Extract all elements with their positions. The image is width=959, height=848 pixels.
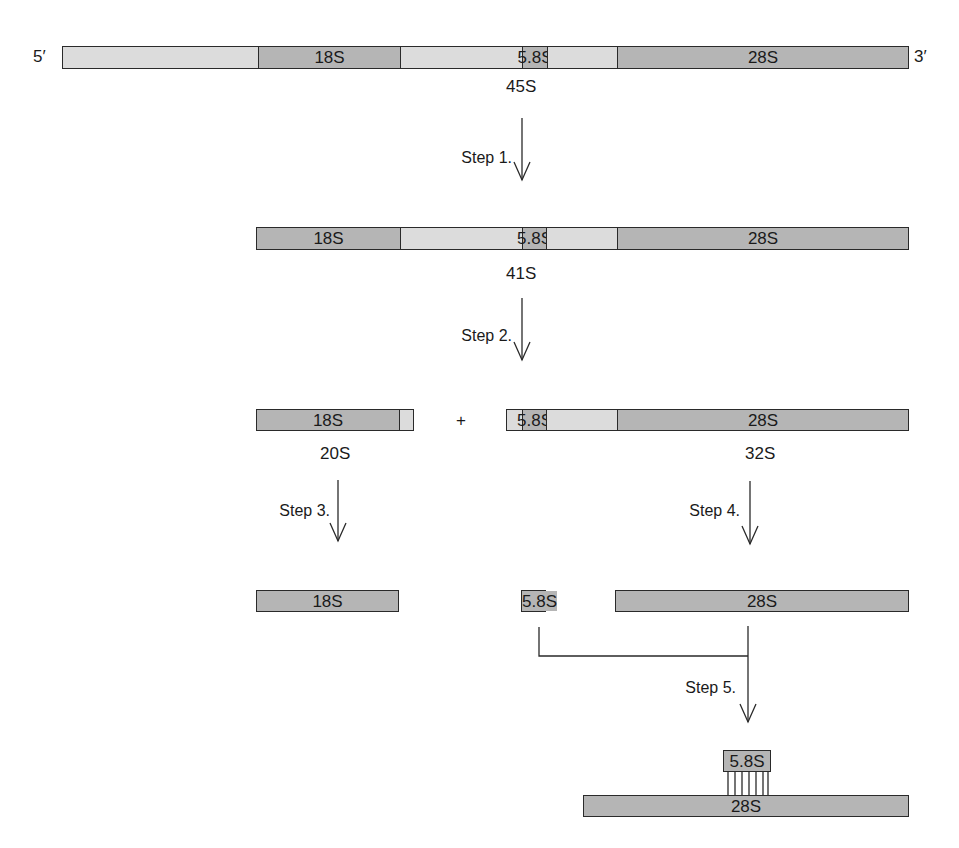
plus-sign: + [456,412,466,429]
three-prime-end-label: 3′ [914,48,927,65]
precursor-45S-label: 45S [506,78,536,95]
intermediate-20S-label: 20S [320,445,350,462]
segment-28S: 28S [617,47,908,68]
segment-5-8S: 5.8S [522,410,546,430]
spacer-its1-remnant [399,410,413,430]
segment-28S: 28S [617,228,908,249]
intermediate-41S-label: 41S [506,265,536,282]
spacer-its1 [400,228,522,249]
spacer-its2 [547,47,617,68]
intermediate-20S-bar: 18S [256,409,414,431]
step5-join-arrow-icon [539,626,756,722]
intermediate-32S-label: 32S [745,445,775,462]
spacer-its1 [400,47,522,68]
mature-18S-bar: 18S [256,590,399,612]
precursor-45S-bar: 18S 5.8S 28S [62,46,909,69]
intermediate-32S-bar: 5.8S 28S [506,409,909,431]
step5-label: Step 5. [668,680,736,696]
spacer-its2 [546,228,617,249]
step1-label: Step 1. [452,150,512,166]
step1-arrow-icon [514,118,530,180]
spacer-its2 [546,410,617,430]
segment-28S: 28S [616,591,908,611]
segment-28S: 28S [617,410,908,430]
segment-18S: 18S [258,47,400,68]
mature-28S-bar: 28S [615,590,909,612]
segment-5-8S: 5.8S [724,751,770,771]
step3-label: Step 3. [268,503,330,519]
base-pair-lines-icon [728,771,768,795]
complex-28S-bar: 28S [583,795,909,817]
segment-5-8S: 5.8S [522,591,557,611]
step4-arrow-icon [742,481,758,544]
segment-5-8S: 5.8S [522,47,547,68]
mature-5-8S-bar: 5.8S [521,590,546,612]
segment-18S: 18S [257,410,399,430]
complex-5-8S-box: 5.8S [723,750,771,772]
step2-arrow-icon [514,298,530,360]
intermediate-41S-bar: 18S 5.8S 28S [256,227,909,250]
step4-label: Step 4. [678,503,740,519]
segment-5-8S: 5.8S [522,228,546,249]
rrna-processing-diagram: 5′ 18S 5.8S 28S 3′ 45S Step 1. 18S 5.8S … [0,0,959,848]
segment-18S: 18S [257,591,398,611]
spacer-5-ets [63,47,258,68]
segment-28S: 28S [584,796,908,816]
step3-arrow-icon [330,480,346,541]
five-prime-end-label: 5′ [33,48,46,65]
step2-label: Step 2. [452,328,512,344]
segment-18S: 18S [257,228,400,249]
